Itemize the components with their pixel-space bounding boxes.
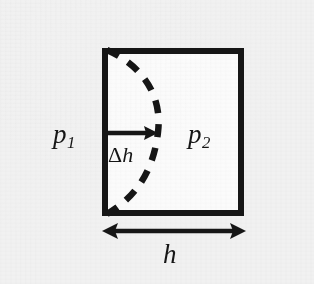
label-pressure-left: p1 xyxy=(53,121,75,152)
label-delta-h: Δh xyxy=(108,144,133,166)
label-pressure-right-subscript: 2 xyxy=(202,133,211,152)
figure-root: p1 p2 Δh h xyxy=(0,0,314,284)
label-pressure-left-symbol: p xyxy=(53,119,67,149)
label-pressure-left-subscript: 1 xyxy=(67,133,76,152)
label-width-h: h xyxy=(163,241,177,268)
diagram-canvas xyxy=(0,0,314,284)
label-pressure-right-symbol: p xyxy=(188,119,202,149)
label-pressure-right: p2 xyxy=(188,121,210,152)
delta-symbol-icon: Δ xyxy=(108,142,122,167)
label-delta-h-symbol: h xyxy=(122,142,133,167)
